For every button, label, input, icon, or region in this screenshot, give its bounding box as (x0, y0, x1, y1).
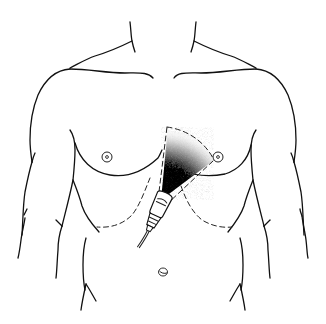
clavicles (70, 69, 256, 78)
trapezius-lines (70, 41, 256, 68)
pectoral-lines (75, 143, 251, 176)
neck (130, 22, 196, 52)
left-torso-side (56, 130, 99, 310)
torso-illustration: Transthoracic ultrasound probe placement… (0, 0, 326, 324)
right-shoulder-arm (256, 69, 308, 258)
left-nipple (102, 152, 112, 162)
right-torso-side (228, 130, 270, 310)
ultrasound-probe-icon (133, 189, 173, 251)
navel (159, 268, 168, 276)
torso-drawing (0, 0, 326, 324)
left-shoulder-arm (18, 69, 70, 258)
right-nipple (213, 152, 223, 162)
